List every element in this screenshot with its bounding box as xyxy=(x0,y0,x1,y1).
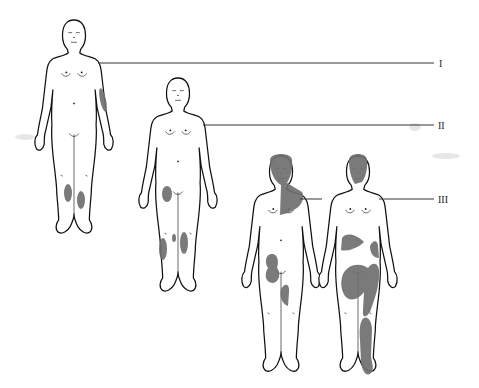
lesion-left-shin xyxy=(64,184,72,202)
lesion-right-shin xyxy=(180,232,188,254)
lesion-left-lower-leg xyxy=(360,318,373,375)
lesion-left-shin xyxy=(159,238,167,260)
scan-smudge xyxy=(409,123,421,131)
figure-stage-3b xyxy=(319,154,397,374)
figure-stage-2 xyxy=(139,78,217,291)
scan-smudge xyxy=(432,153,460,159)
stage-label-3: III xyxy=(438,194,448,205)
lesion-right-shin xyxy=(77,191,85,209)
stage-label-1: I xyxy=(439,58,442,69)
lesion-thigh xyxy=(266,254,280,283)
figure-stage-3a xyxy=(242,154,320,371)
lesion-thigh xyxy=(162,186,172,202)
scan-smudge xyxy=(15,134,35,140)
stage-label-2: II xyxy=(438,120,445,131)
lesion-knee xyxy=(172,234,176,242)
figure-stage-1 xyxy=(35,20,113,233)
staging-diagram: I II III xyxy=(0,0,479,388)
